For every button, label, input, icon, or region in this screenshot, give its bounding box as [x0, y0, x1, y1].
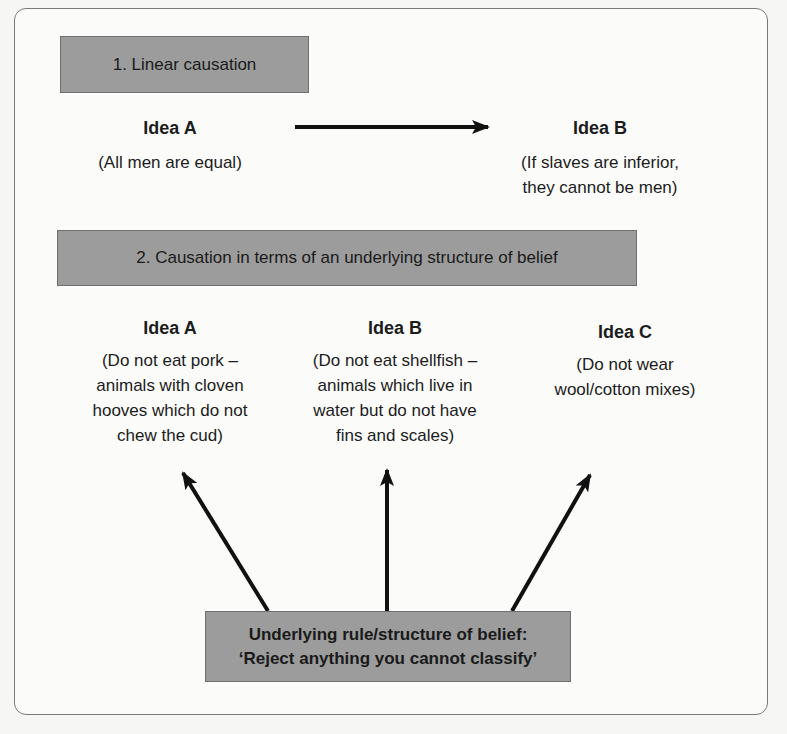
- underlying-rule-box: Underlying rule/structure of belief: ‘Re…: [205, 611, 571, 682]
- arrow-to-idea-a: [183, 473, 268, 611]
- rule-line-2: ‘Reject anything you cannot classify’: [239, 647, 538, 671]
- arrow-to-idea-c: [512, 475, 590, 611]
- rule-line-1: Underlying rule/structure of belief:: [249, 623, 528, 647]
